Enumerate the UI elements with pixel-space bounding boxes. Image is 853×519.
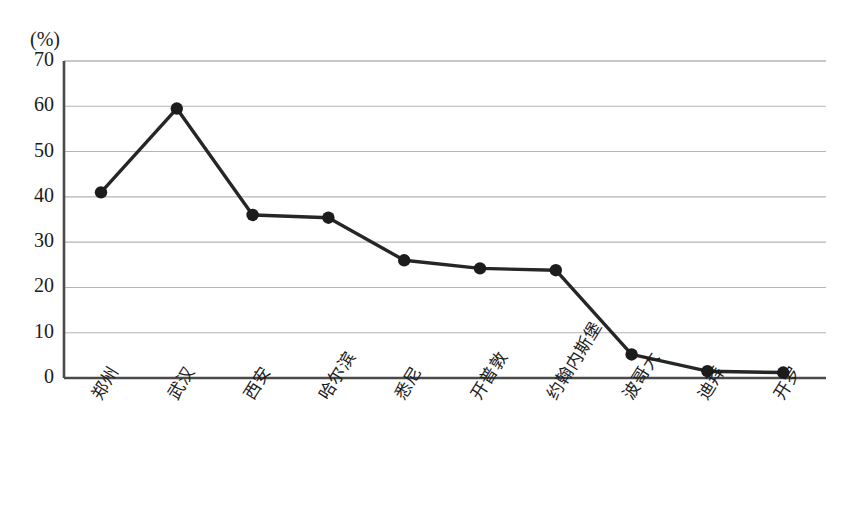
y-axis-tick-label: 0 bbox=[18, 365, 54, 388]
y-axis-tick-label: 40 bbox=[18, 184, 54, 207]
y-axis-tick-label: 70 bbox=[18, 48, 54, 71]
data-point bbox=[246, 209, 258, 221]
y-axis-tick-label: 20 bbox=[18, 274, 54, 297]
data-point bbox=[95, 186, 107, 198]
data-point bbox=[550, 264, 562, 276]
y-axis-tick-label: 60 bbox=[18, 93, 54, 116]
data-point bbox=[322, 211, 334, 223]
line-chart: (%) 010203040506070 郑州武汉西安哈尔滨悉尼开普敦约翰内斯堡波… bbox=[0, 0, 853, 519]
data-point bbox=[398, 254, 410, 266]
gridlines-group bbox=[64, 61, 826, 333]
y-axis-tick-label: 50 bbox=[18, 139, 54, 162]
chart-canvas bbox=[0, 0, 853, 519]
data-point-markers bbox=[95, 102, 790, 378]
data-point bbox=[171, 102, 183, 114]
data-point bbox=[474, 262, 486, 274]
y-axis-tick-label: 30 bbox=[18, 229, 54, 252]
y-axis-tick-label: 10 bbox=[18, 320, 54, 343]
